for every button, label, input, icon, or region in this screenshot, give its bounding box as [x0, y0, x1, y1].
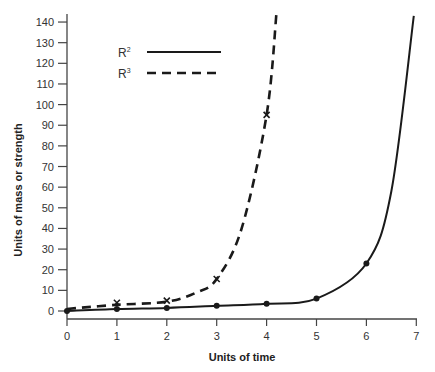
- legend-label-r3: R3: [118, 67, 131, 81]
- y-tick-label: 80: [42, 140, 54, 152]
- data-point-dot: [363, 261, 369, 267]
- x-tick-label: 1: [114, 330, 120, 342]
- data-point-dot: [314, 296, 320, 302]
- y-axis-title: Units of mass or strength: [12, 123, 24, 257]
- data-point-dot: [114, 306, 120, 312]
- y-tick-label: 30: [42, 243, 54, 255]
- legend-item-r2: R2: [118, 46, 221, 60]
- x-axis-ticks: 01234567: [64, 319, 419, 342]
- y-axis-ticks: 0102030405060708090100110120130140: [36, 16, 67, 317]
- data-point-dot: [164, 305, 170, 311]
- y-tick-label: 20: [42, 264, 54, 276]
- y-tick-label: 130: [36, 37, 54, 49]
- chart-canvas: 0102030405060708090100110120130140 01234…: [0, 0, 435, 372]
- y-tick-label: 50: [42, 202, 54, 214]
- y-tick-label: 60: [42, 181, 54, 193]
- y-tick-label: 140: [36, 16, 54, 28]
- x-tick-label: 0: [64, 330, 70, 342]
- x-tick-label: 3: [214, 330, 220, 342]
- legend-item-r3: R3: [118, 67, 221, 81]
- y-tick-label: 10: [42, 284, 54, 296]
- x-tick-label: 4: [264, 330, 270, 342]
- series-r3-line: [67, 12, 277, 309]
- data-point-dot: [64, 308, 70, 314]
- y-tick-label: 70: [42, 161, 54, 173]
- data-point-dot: [214, 303, 220, 309]
- y-tick-label: 90: [42, 119, 54, 131]
- legend-label-r2: R2: [118, 46, 131, 60]
- legend: R2 R3: [118, 46, 221, 81]
- y-tick-label: 110: [36, 78, 54, 90]
- series-r2-markers: [64, 261, 369, 314]
- y-tick-label: 40: [42, 222, 54, 234]
- x-tick-label: 2: [164, 330, 170, 342]
- series-r2-line: [67, 16, 414, 311]
- x-tick-label: 7: [413, 330, 419, 342]
- data-point-dot: [264, 301, 270, 307]
- x-tick-label: 5: [313, 330, 319, 342]
- y-tick-label: 120: [36, 57, 54, 69]
- y-tick-label: 100: [36, 99, 54, 111]
- x-axis-title: Units of time: [209, 351, 276, 363]
- x-tick-label: 6: [363, 330, 369, 342]
- y-tick-label: 0: [48, 305, 54, 317]
- data-point-x: [164, 298, 170, 304]
